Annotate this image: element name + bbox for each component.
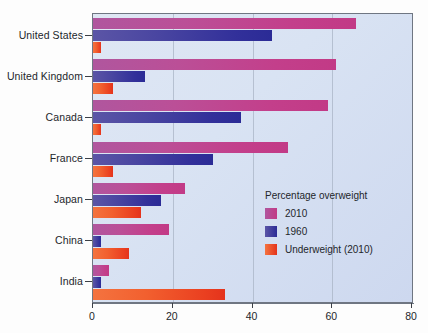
bar-underweight-2010 [93, 207, 141, 218]
bar-1960 [93, 30, 272, 41]
bar-group [93, 100, 412, 135]
bar-1960 [93, 154, 213, 165]
legend-item-1960: 1960 [265, 226, 373, 237]
bar-group [93, 265, 412, 300]
x-axis-tick-20 [172, 303, 173, 308]
bar-2010 [93, 18, 356, 29]
y-axis-label-china: China [55, 234, 83, 246]
bar-2010 [93, 224, 169, 235]
y-axis-label-canada: Canada [46, 111, 83, 123]
legend-title: Percentage overweight [265, 190, 373, 201]
x-axis-label-60: 60 [325, 310, 337, 322]
bar-underweight-2010 [93, 289, 225, 300]
legend-item-2010: 2010 [265, 208, 373, 219]
legend-swatch-2010 [265, 208, 277, 219]
x-axis-label-0: 0 [89, 310, 95, 322]
bar-group [93, 18, 412, 53]
bar-2010 [93, 100, 328, 111]
x-axis-label-20: 20 [166, 310, 178, 322]
y-axis-tick [85, 281, 92, 282]
bar-group [93, 59, 412, 94]
x-axis-line [92, 303, 414, 304]
bar-group [93, 142, 412, 177]
x-axis-label-40: 40 [246, 310, 258, 322]
bar-2010 [93, 265, 109, 276]
y-axis-label-france: France [50, 152, 83, 164]
x-axis-tick-40 [252, 303, 253, 308]
chart-legend: Percentage overweight 2010 1960 Underwei… [265, 190, 373, 262]
y-axis-tick [85, 35, 92, 36]
y-axis-tick [85, 199, 92, 200]
bar-underweight-2010 [93, 42, 101, 53]
y-axis-tick [85, 117, 92, 118]
y-axis-tick [85, 76, 92, 77]
bar-1960 [93, 236, 101, 247]
legend-label-1960: 1960 [285, 226, 307, 237]
x-axis-tick-60 [331, 303, 332, 308]
y-axis-label-united-states: United States [19, 29, 83, 41]
x-axis-tick-0 [92, 303, 93, 308]
legend-label-2010: 2010 [285, 208, 307, 219]
legend-item-underweight: Underweight (2010) [265, 244, 373, 255]
y-axis-tick [85, 240, 92, 241]
bar-underweight-2010 [93, 124, 101, 135]
y-axis-tick [85, 158, 92, 159]
bar-underweight-2010 [93, 83, 113, 94]
bar-1960 [93, 112, 241, 123]
bar-1960 [93, 195, 161, 206]
bar-1960 [93, 277, 101, 288]
x-axis-tick-80 [411, 303, 412, 308]
bar-2010 [93, 183, 185, 194]
legend-swatch-1960 [265, 226, 277, 237]
chart-container: United StatesUnited KingdomCanadaFranceJ… [0, 0, 428, 333]
y-axis-label-japan: Japan [54, 193, 83, 205]
bar-2010 [93, 59, 336, 70]
y-axis-label-united-kingdom: United Kingdom [7, 70, 83, 82]
bar-1960 [93, 71, 145, 82]
x-axis-label-80: 80 [405, 310, 417, 322]
y-axis-label-india: India [60, 275, 83, 287]
bar-underweight-2010 [93, 248, 129, 259]
bar-2010 [93, 142, 288, 153]
legend-swatch-underweight [265, 244, 277, 255]
bar-underweight-2010 [93, 166, 113, 177]
legend-label-underweight: Underweight (2010) [285, 244, 373, 255]
